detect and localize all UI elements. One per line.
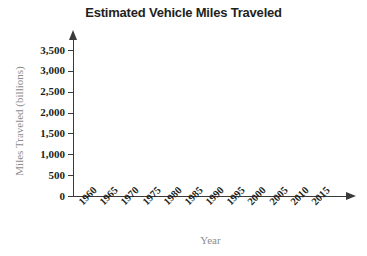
y-axis-tick bbox=[68, 113, 73, 114]
y-axis-tick-label: 2,500 bbox=[40, 86, 65, 97]
y-axis-title: Miles Traveled (billions) bbox=[13, 46, 25, 196]
y-axis-tick bbox=[68, 92, 73, 93]
y-axis-tick-label: 2,000 bbox=[40, 107, 65, 118]
y-axis-tick-label: 1,500 bbox=[40, 128, 65, 139]
y-axis-tick bbox=[68, 133, 73, 134]
y-axis-tick-label: 1,000 bbox=[40, 149, 65, 160]
y-axis-tick bbox=[68, 71, 73, 72]
y-axis-tick-label: 3,500 bbox=[40, 45, 65, 56]
y-axis-tick-label: 500 bbox=[49, 170, 66, 181]
y-axis-tick-label: 0 bbox=[60, 191, 66, 202]
plot-area bbox=[74, 38, 348, 196]
y-axis-tick bbox=[68, 50, 73, 51]
y-axis-tick-label: 3,000 bbox=[40, 65, 65, 76]
chart-title: Estimated Vehicle Miles Traveled bbox=[0, 5, 367, 20]
y-axis-tick bbox=[68, 154, 73, 155]
y-axis-tick bbox=[68, 175, 73, 176]
y-axis-tick bbox=[68, 196, 73, 197]
x-axis-title: Year bbox=[73, 234, 348, 246]
